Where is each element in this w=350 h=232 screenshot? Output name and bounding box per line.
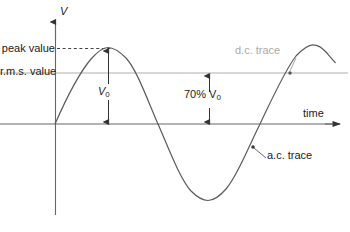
ac-trace-label: a.c. trace	[267, 150, 312, 161]
dc-trace-leader-dot	[288, 71, 291, 74]
ac-trace-leader-line	[254, 148, 266, 158]
ac-trace-curve	[55, 45, 336, 201]
rms-value-label: r.m.s. value	[0, 66, 55, 77]
waveform-diagram: V time peak value r.m.s. value V0 70% V0…	[0, 0, 350, 232]
dc-trace-label: d.c. trace	[235, 45, 280, 56]
time-axis-label: time	[303, 108, 324, 119]
voltage-axis-label: V	[60, 6, 67, 17]
rms-fraction-label: 70% V0	[184, 89, 221, 102]
ac-trace-leader-dot	[251, 145, 254, 148]
amplitude-label-subscript: 0	[105, 90, 109, 99]
rms-fraction-label-subscript: 0	[216, 93, 220, 102]
diagram-canvas	[0, 0, 350, 232]
rms-fraction-label-text: 70% V	[184, 88, 216, 100]
amplitude-label: V0	[98, 86, 110, 99]
peak-value-label: peak value	[0, 43, 55, 54]
